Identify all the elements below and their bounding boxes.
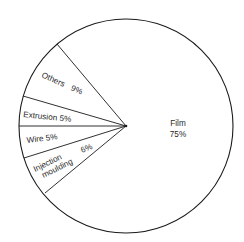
pie-chart: Film 75% Others 9% Extrusion 5% Wire 5% … <box>0 0 244 242</box>
slice-label-film-name: Film <box>170 119 186 128</box>
slice-label-film-value: 75% <box>170 130 186 139</box>
pie-center <box>125 125 128 128</box>
